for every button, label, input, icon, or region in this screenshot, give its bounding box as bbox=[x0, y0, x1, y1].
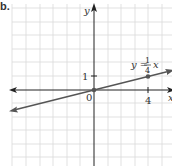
grid-lines bbox=[12, 4, 172, 166]
equation-label: y = 1 4 x bbox=[130, 56, 159, 75]
y-axis-label: y bbox=[83, 5, 90, 16]
coordinate-graph: y x 0 4 1 y = 1 4 x bbox=[0, 0, 172, 166]
origin-label: 0 bbox=[86, 92, 92, 103]
point-origin bbox=[92, 88, 97, 93]
y-axis bbox=[91, 3, 97, 166]
equation-numerator: 1 bbox=[145, 56, 150, 65]
equation-denominator: 4 bbox=[145, 66, 150, 75]
x-axis-label: x bbox=[168, 92, 172, 103]
x-tick-label-4: 4 bbox=[145, 95, 151, 106]
equation-variable: x bbox=[153, 59, 159, 70]
y-tick-label-1: 1 bbox=[82, 71, 88, 82]
